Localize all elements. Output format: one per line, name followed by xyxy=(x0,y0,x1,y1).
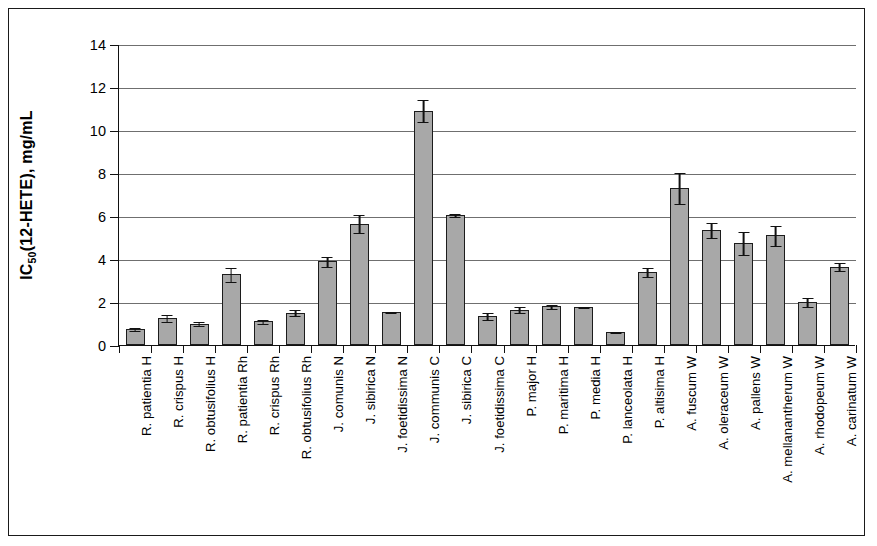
error-bar xyxy=(610,332,621,334)
bar[interactable] xyxy=(158,318,177,345)
error-bar xyxy=(386,312,397,314)
gridline xyxy=(119,45,856,46)
x-axis-category-label: A. mellanantherum W xyxy=(780,356,795,483)
error-bar xyxy=(834,263,845,272)
bar-group[interactable] xyxy=(670,188,689,345)
bar[interactable] xyxy=(222,274,241,345)
error-bar xyxy=(354,215,365,234)
bar-group[interactable] xyxy=(830,267,849,345)
bar[interactable] xyxy=(766,235,785,345)
x-axis-tick xyxy=(439,345,440,353)
x-axis-tick xyxy=(600,345,601,353)
bar[interactable] xyxy=(606,332,625,345)
x-axis-tick xyxy=(183,345,184,353)
bar[interactable] xyxy=(670,188,689,345)
bar-group[interactable] xyxy=(350,224,369,345)
bar-group[interactable] xyxy=(638,272,657,345)
y-axis-tick xyxy=(110,217,119,218)
y-axis-tick-label: 2 xyxy=(66,295,106,311)
bar-group[interactable] xyxy=(318,261,337,345)
y-axis-title: IC50(12-HETE), mg/mL xyxy=(14,45,42,346)
bar-group[interactable] xyxy=(606,332,625,345)
x-axis-category-label: A. carinatum W xyxy=(844,356,859,446)
bar[interactable] xyxy=(318,261,337,345)
bar[interactable] xyxy=(478,316,497,345)
y-axis-title-prefix: IC xyxy=(18,264,35,280)
bar[interactable] xyxy=(350,224,369,345)
error-bar xyxy=(482,313,493,322)
bar[interactable] xyxy=(798,302,817,345)
y-axis-tick-label: 10 xyxy=(66,123,106,139)
bar-group[interactable] xyxy=(734,243,753,345)
x-axis-tick xyxy=(343,345,344,353)
y-axis-tick xyxy=(110,303,119,304)
error-bar xyxy=(418,100,429,124)
bar-group[interactable] xyxy=(510,310,529,345)
x-axis-category-label: R. crispus Rh xyxy=(267,356,282,435)
bar[interactable] xyxy=(190,324,209,346)
gridline xyxy=(119,88,856,89)
y-axis-tick xyxy=(110,88,119,89)
y-axis-tick xyxy=(110,174,119,175)
x-axis-category-label: A. fuscum W xyxy=(684,356,699,431)
bar-group[interactable] xyxy=(798,302,817,345)
y-axis-tick-label: 0 xyxy=(66,338,106,354)
x-axis-tick xyxy=(632,345,633,353)
y-axis-tick-label: 4 xyxy=(66,252,106,268)
x-axis-tick xyxy=(760,345,761,353)
bar-group[interactable] xyxy=(446,215,465,345)
bar-group[interactable] xyxy=(414,111,433,345)
y-axis-tick xyxy=(110,45,119,46)
bar-group[interactable] xyxy=(254,321,273,345)
x-axis-category-label: J. sibirica N xyxy=(363,356,378,424)
bar[interactable] xyxy=(542,306,561,345)
plot-area: 02468101214 xyxy=(118,45,855,346)
bar-group[interactable] xyxy=(158,318,177,345)
y-axis-tick-label: 14 xyxy=(66,37,106,53)
bar-group[interactable] xyxy=(222,274,241,345)
error-bar xyxy=(322,257,333,268)
bar[interactable] xyxy=(574,307,593,345)
bar-group[interactable] xyxy=(766,235,785,345)
bar[interactable] xyxy=(414,111,433,345)
bar[interactable] xyxy=(286,313,305,345)
bar-group[interactable] xyxy=(574,307,593,345)
x-axis-category-label: R. obtusifolius Rh xyxy=(299,356,314,459)
bar-group[interactable] xyxy=(190,324,209,346)
y-axis-tick-label: 12 xyxy=(66,80,106,96)
error-bar xyxy=(706,223,717,238)
error-bar xyxy=(738,232,749,256)
x-axis-tick xyxy=(247,345,248,353)
bar[interactable] xyxy=(126,329,145,345)
x-axis-tick xyxy=(696,345,697,353)
x-axis-category-label: P. maritima H xyxy=(556,356,571,434)
bar-group[interactable] xyxy=(478,316,497,345)
x-axis-tick xyxy=(728,345,729,353)
bar-group[interactable] xyxy=(542,306,561,345)
bar[interactable] xyxy=(830,267,849,345)
x-axis-tick xyxy=(824,345,825,353)
bar[interactable] xyxy=(446,215,465,345)
bar[interactable] xyxy=(382,312,401,345)
x-axis-category-label: P. major H xyxy=(524,356,539,417)
bar-group[interactable] xyxy=(286,313,305,345)
bar[interactable] xyxy=(734,243,753,345)
gridline xyxy=(119,174,856,175)
error-bar xyxy=(514,307,525,315)
x-axis-tick xyxy=(856,345,857,353)
x-axis-tick xyxy=(536,345,537,353)
error-bar xyxy=(162,315,173,323)
x-axis-tick xyxy=(568,345,569,353)
bar-group[interactable] xyxy=(126,329,145,345)
bar-group[interactable] xyxy=(382,312,401,345)
x-axis-tick xyxy=(504,345,505,353)
x-axis-category-label: J. foetidissima C xyxy=(492,356,507,453)
y-axis-title-suffix: (12-HETE), mg/mL xyxy=(18,111,35,252)
bar[interactable] xyxy=(702,230,721,345)
bar[interactable] xyxy=(254,321,273,345)
x-axis-tick xyxy=(664,345,665,353)
bar-group[interactable] xyxy=(702,230,721,345)
error-bar xyxy=(194,322,205,326)
bar[interactable] xyxy=(638,272,657,345)
bar[interactable] xyxy=(510,310,529,345)
